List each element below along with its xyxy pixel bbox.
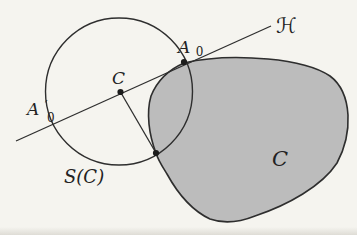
- sphere-label: S(C): [64, 166, 104, 187]
- convex-body-label: C: [272, 147, 288, 171]
- center-point-dot: [117, 89, 123, 95]
- a0-point-dot: [181, 59, 187, 65]
- diagram-svg: ℋ A 0 A ′ 0 C S(C) C: [0, 0, 357, 235]
- center-label: C: [112, 68, 125, 88]
- geometry-diagram: ℋ A 0 A ′ 0 C S(C) C: [0, 0, 357, 235]
- line-h-label: ℋ: [276, 14, 297, 38]
- tangency-point-dot: [153, 150, 159, 156]
